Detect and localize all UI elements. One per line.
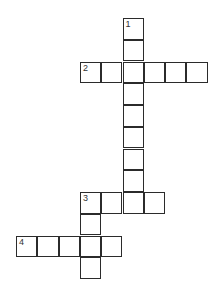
crossword-cell[interactable] bbox=[123, 149, 144, 171]
crossword-cell[interactable] bbox=[186, 62, 207, 84]
crossword-cell[interactable] bbox=[80, 236, 101, 258]
crossword-cell[interactable] bbox=[123, 192, 144, 214]
crossword-cell[interactable] bbox=[123, 127, 144, 149]
crossword-cell[interactable]: 4 bbox=[16, 236, 37, 258]
clue-number: 4 bbox=[19, 237, 24, 247]
crossword-cell[interactable] bbox=[101, 62, 122, 84]
crossword-grid: 1234 bbox=[0, 0, 219, 295]
crossword-cell[interactable] bbox=[37, 236, 58, 258]
crossword-cell[interactable] bbox=[123, 40, 144, 62]
crossword-cell[interactable] bbox=[59, 236, 80, 258]
clue-number: 3 bbox=[83, 193, 88, 203]
crossword-cell[interactable]: 2 bbox=[80, 62, 101, 84]
crossword-cell[interactable] bbox=[123, 62, 144, 84]
clue-number: 1 bbox=[126, 19, 131, 29]
crossword-cell[interactable] bbox=[101, 192, 122, 214]
crossword-cell[interactable] bbox=[101, 236, 122, 258]
clue-number: 2 bbox=[83, 63, 88, 73]
crossword-cell[interactable] bbox=[80, 214, 101, 236]
crossword-cell[interactable]: 3 bbox=[80, 192, 101, 214]
crossword-cell[interactable] bbox=[165, 62, 186, 84]
crossword-cell[interactable] bbox=[144, 192, 165, 214]
crossword-cell[interactable] bbox=[123, 170, 144, 192]
crossword-cell[interactable] bbox=[123, 105, 144, 127]
crossword-cell[interactable] bbox=[144, 62, 165, 84]
crossword-cell[interactable] bbox=[80, 257, 101, 279]
crossword-cell[interactable]: 1 bbox=[123, 18, 144, 40]
crossword-cell[interactable] bbox=[123, 83, 144, 105]
